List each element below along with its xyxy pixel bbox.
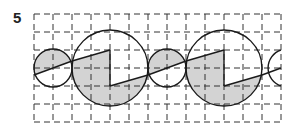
geometry-diagram [0,0,295,134]
dashed-grid [34,14,281,122]
